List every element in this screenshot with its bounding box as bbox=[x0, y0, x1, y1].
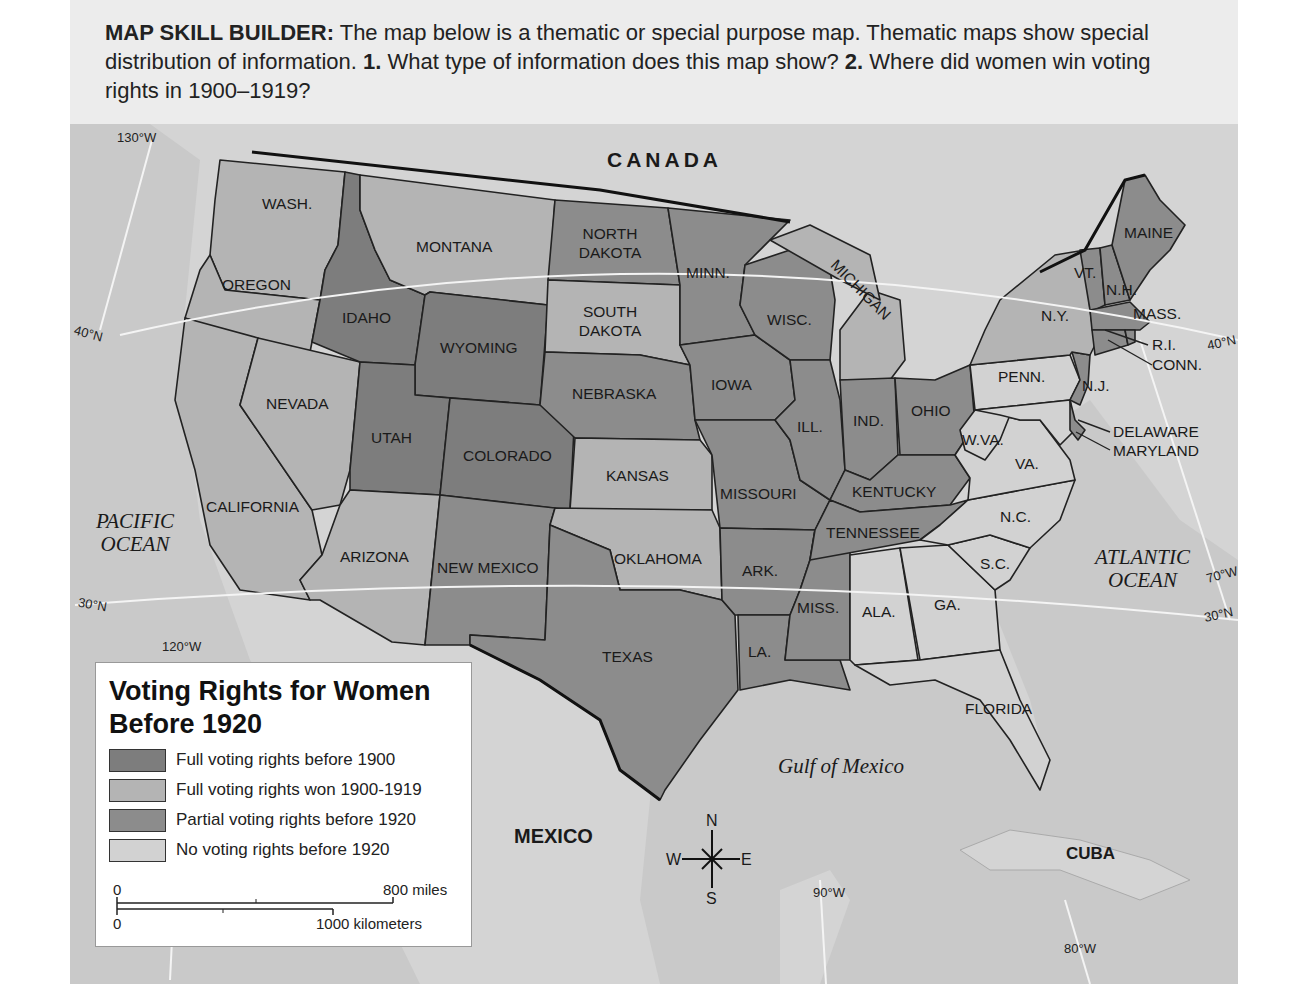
state-label-va: VA. bbox=[1015, 456, 1039, 472]
state-label-nc: N.C. bbox=[1000, 509, 1031, 525]
state-label-nevada: NEVADA bbox=[266, 396, 329, 412]
cuba-island bbox=[960, 830, 1190, 900]
country-label-mexico: MEXICO bbox=[514, 826, 593, 846]
map-legend: Voting Rights for Women Before 1920 Full… bbox=[95, 662, 472, 947]
state-label-nebraska: NEBRASKA bbox=[572, 386, 656, 402]
legend-swatch bbox=[109, 839, 166, 862]
question-1: What type of information does this map s… bbox=[381, 49, 844, 74]
coord-90w: 90°W bbox=[813, 886, 845, 899]
legend-item-full-1900-1919: Full voting rights won 1900-1919 bbox=[109, 779, 422, 801]
state-label-delaware: DELAWARE bbox=[1113, 424, 1199, 440]
state-label-new-mexico: NEW MEXICO bbox=[437, 560, 539, 576]
state-label-idaho: IDAHO bbox=[342, 310, 391, 326]
state-label-ark: ARK. bbox=[742, 563, 778, 579]
state-label-maine: MAINE bbox=[1124, 225, 1173, 241]
state-label-wyoming: WYOMING bbox=[440, 340, 518, 356]
state-label-north-dakota: NORTH DAKOTA bbox=[575, 224, 645, 262]
state-label-la: LA. bbox=[748, 644, 771, 660]
state-label-california: CALIFORNIA bbox=[206, 499, 299, 515]
header-text: MAP SKILL BUILDER: The map below is a th… bbox=[105, 18, 1165, 105]
legend-item-none: No voting rights before 1920 bbox=[109, 839, 390, 861]
scale-km-zero: 0 bbox=[113, 915, 121, 932]
state-label-ga: GA. bbox=[934, 597, 961, 613]
state-label-ind: IND. bbox=[853, 413, 884, 429]
coord-130w: 130°W bbox=[117, 131, 156, 144]
state-label-vt: VT. bbox=[1074, 265, 1096, 281]
state-label-tennessee: TENNESSEE bbox=[826, 525, 920, 541]
header-label: MAP SKILL BUILDER: bbox=[105, 20, 334, 45]
state-label-sc: S.C. bbox=[980, 556, 1010, 572]
compass-n: N bbox=[706, 813, 718, 829]
legend-title: Voting Rights for Women Before 1920 bbox=[109, 675, 471, 741]
compass-e: E bbox=[741, 852, 752, 868]
state-label-ill: ILL. bbox=[797, 419, 823, 435]
state-label-minn: MINN. bbox=[686, 265, 730, 281]
legend-item-full-before-1900: Full voting rights before 1900 bbox=[109, 749, 395, 771]
state-label-missouri: MISSOURI bbox=[720, 486, 797, 502]
state-label-ri: R.I. bbox=[1152, 337, 1176, 353]
country-label-canada: CANADA bbox=[607, 149, 722, 170]
state-label-texas: TEXAS bbox=[602, 649, 653, 665]
map-skill-builder-header: MAP SKILL BUILDER: The map below is a th… bbox=[70, 0, 1238, 124]
state-label-south-dakota: SOUTH DAKOTA bbox=[575, 302, 645, 340]
state-label-florida: FLORIDA bbox=[965, 701, 1032, 717]
state-label-mass: MASS. bbox=[1133, 306, 1181, 322]
scale-km-label: 1000 kilometers bbox=[316, 915, 422, 932]
state-label-nj: N.J. bbox=[1082, 378, 1110, 394]
pacific-ocean-label: PACIFIC OCEAN bbox=[90, 510, 180, 556]
state-label-oklahoma: OKLAHOMA bbox=[614, 551, 702, 567]
coord-120w: 120°W bbox=[162, 640, 201, 653]
state-label-wisc: WISC. bbox=[767, 312, 812, 328]
state-label-iowa: IOWA bbox=[711, 377, 752, 393]
state-label-arizona: ARIZONA bbox=[340, 549, 409, 565]
state-label-conn: CONN. bbox=[1152, 357, 1202, 373]
compass-rose-graphic bbox=[682, 830, 740, 888]
state-label-penn: PENN. bbox=[998, 369, 1045, 385]
state-label-kentucky: KENTUCKY bbox=[852, 484, 936, 500]
state-label-wva: W.VA. bbox=[962, 432, 1004, 448]
state-label-colorado: COLORADO bbox=[463, 448, 552, 464]
legend-swatch bbox=[109, 779, 166, 802]
state-label-ala: ALA. bbox=[862, 604, 896, 620]
state-label-maryland: MARYLAND bbox=[1113, 443, 1199, 459]
legend-swatch bbox=[109, 809, 166, 832]
country-label-cuba: CUBA bbox=[1066, 845, 1115, 862]
coord-80w: 80°W bbox=[1064, 942, 1096, 955]
gulf-of-mexico-label: Gulf of Mexico bbox=[778, 755, 904, 778]
compass-s: S bbox=[706, 891, 717, 907]
legend-item-partial: Partial voting rights before 1920 bbox=[109, 809, 416, 831]
legend-swatch bbox=[109, 749, 166, 772]
state-label-utah: UTAH bbox=[371, 430, 412, 446]
state-label-nh: N.H. bbox=[1106, 282, 1137, 298]
state-label-ny: N.Y. bbox=[1041, 308, 1069, 324]
state-label-miss: MISS. bbox=[797, 600, 839, 616]
state-label-ohio: OHIO bbox=[911, 403, 951, 419]
state-label-wash: WASH. bbox=[262, 196, 312, 212]
atlantic-ocean-label: ATLANTIC OCEAN bbox=[1085, 546, 1200, 592]
state-label-oregon: OREGON bbox=[222, 277, 291, 293]
state-label-montana: MONTANA bbox=[416, 239, 492, 255]
state-label-kansas: KANSAS bbox=[606, 468, 669, 484]
compass-w: W bbox=[666, 852, 681, 868]
